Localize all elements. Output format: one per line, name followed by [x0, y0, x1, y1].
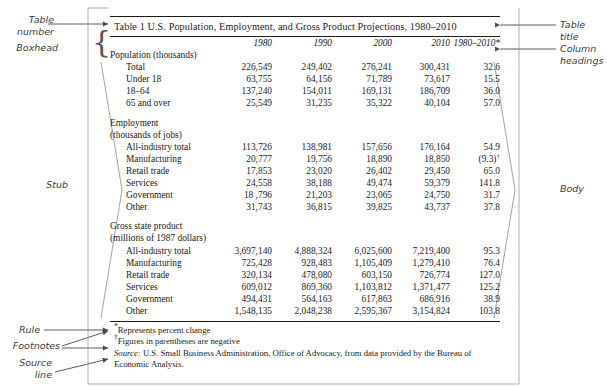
cell-value: 39,825 [332, 201, 392, 213]
cell-value: 478,080 [272, 269, 332, 281]
cell-value: 928,483 [272, 257, 332, 269]
cell-value: 19,756 [272, 153, 332, 165]
cell-value: 2,048,238 [272, 305, 332, 317]
table-row: Total226,549249,402276,241300,43132.6 [110, 61, 500, 73]
cell-value: 1,279,410 [392, 257, 450, 269]
table-row: All-industry total113,726138,981157,6561… [110, 141, 500, 153]
footnote-asterisk: *Represents percent change [114, 325, 500, 336]
table-row: Other31,74336,81539,82543,73737.8 [110, 201, 500, 213]
section-heading: (millions of 1987 dollars) [110, 232, 500, 244]
footnote-text-asterisk: Represents percent change [118, 325, 211, 335]
cell-value: 71,789 [332, 73, 392, 85]
cell-value: 226,549 [228, 61, 272, 73]
row-label: Retail trade [110, 269, 228, 281]
annotation-table-title: Table title [560, 19, 606, 42]
row-label: Under 18 [110, 73, 228, 85]
cell-value: 249,402 [272, 61, 332, 73]
cell-value: 95.3 [450, 245, 500, 257]
cell-value: 18,850 [392, 153, 450, 165]
row-label: Government [110, 189, 228, 201]
section-heading-row: (thousands of jobs) [110, 129, 500, 141]
section-heading: Population (thousands) [110, 49, 500, 61]
row-label: Total [110, 61, 228, 73]
cell-value: 20,777 [228, 153, 272, 165]
cell-value: 4,888,324 [272, 245, 332, 257]
cell-value: 36,815 [272, 201, 332, 213]
table-title: Table 1 U.S. Population, Employment, and… [110, 17, 500, 36]
cell-value: 65.0 [450, 165, 500, 177]
cell-value: 15.5 [450, 73, 500, 85]
section-heading: Gross state product [110, 220, 500, 232]
cell-value: 1,103,812 [332, 281, 392, 293]
cell-value: 38.9 [450, 293, 500, 305]
cell-value: 564,163 [272, 293, 332, 305]
footnotes-block: *Represents percent change †Figures in p… [110, 322, 500, 371]
col-head-2000: 2000 [332, 37, 392, 49]
cell-value: 725,428 [228, 257, 272, 269]
cell-value: 26,402 [332, 165, 392, 177]
table-row: 65 and over25,54931,23535,32240,10457.0 [110, 97, 500, 109]
cell-value: 726,774 [392, 269, 450, 281]
cell-value: 76.4 [450, 257, 500, 269]
source-line: Source: U.S. Small Business Administrati… [114, 348, 500, 371]
cell-value: 2,595,367 [332, 305, 392, 317]
cell-value: 6,025,600 [332, 245, 392, 257]
data-table: 1980 1990 2000 2010 1980–2010* Populatio… [110, 37, 500, 317]
cell-value: 276,241 [332, 61, 392, 73]
cell-value: 3,697,140 [228, 245, 272, 257]
cell-value: 7,219,400 [392, 245, 450, 257]
cell-value: 49,474 [332, 177, 392, 189]
cell-value: 23,065 [332, 189, 392, 201]
section-heading-row: (millions of 1987 dollars) [110, 232, 500, 244]
section-heading-row: Population (thousands) [110, 49, 500, 61]
footnote-text-dagger: Figures in parentheses are negative [118, 336, 240, 346]
col-head-1990: 1990 [272, 37, 332, 49]
row-label: Services [110, 281, 228, 293]
cell-value: 18 ,796 [228, 189, 272, 201]
row-label: Services [110, 177, 228, 189]
annotation-table-number: Table number [2, 14, 54, 37]
boxhead-brace: { [92, 27, 111, 57]
cell-value: 320,134 [228, 269, 272, 281]
cell-footnote-mark: † [497, 152, 501, 160]
stub-head [110, 37, 228, 49]
cell-value: 29,450 [392, 165, 450, 177]
cell-value: 43,737 [392, 201, 450, 213]
table-row: Manufacturing20,77719,75618,89018,850(9.… [110, 153, 500, 165]
table-row: Other1,548,1352,048,2382,595,3673,154,82… [110, 305, 500, 317]
cell-value: 125.2 [450, 281, 500, 293]
row-label: All-industry total [110, 245, 228, 257]
row-label: Retail trade [110, 165, 228, 177]
cell-value: 1,371,477 [392, 281, 450, 293]
cell-value: 59,379 [392, 177, 450, 189]
table-row: Manufacturing725,428928,4831,105,4091,27… [110, 257, 500, 269]
cell-value: 32.6 [450, 61, 500, 73]
section-heading-row: Employment [110, 117, 500, 129]
table-row: All-industry total3,697,1404,888,3246,02… [110, 245, 500, 257]
row-label: Government [110, 293, 228, 305]
source-text: U.S. Small Business Administration, Offi… [114, 348, 472, 369]
cell-value: 176,164 [392, 141, 450, 153]
row-label: Other [110, 305, 228, 317]
cell-value: 603,150 [332, 269, 392, 281]
annotation-footnotes: Footnotes [0, 340, 60, 352]
section-spacer [110, 213, 500, 220]
cell-value: 31.7 [450, 189, 500, 201]
column-headings-row: 1980 1990 2000 2010 1980–2010* [110, 37, 500, 49]
cell-value: 17,853 [228, 165, 272, 177]
annotation-rule: Rule [2, 324, 40, 336]
row-label: 18–64 [110, 85, 228, 97]
cell-value: 609,012 [228, 281, 272, 293]
col-head-1980: 1980 [228, 37, 272, 49]
cell-value: 54.9 [450, 141, 500, 153]
section-heading-row: Gross state product [110, 220, 500, 232]
annotation-column-headings: Column headings [560, 43, 606, 66]
table-block: Table 1 U.S. Population, Employment, and… [110, 16, 500, 371]
cell-value: 137,240 [228, 85, 272, 97]
cell-value: 300,431 [392, 61, 450, 73]
table-row: Under 1863,75564,15671,78973,61715.5 [110, 73, 500, 85]
cell-value: 24,750 [392, 189, 450, 201]
table-row: Retail trade320,134478,080603,150726,774… [110, 269, 500, 281]
cell-value: 113,726 [228, 141, 272, 153]
annotation-source-line: Source line [2, 357, 52, 380]
